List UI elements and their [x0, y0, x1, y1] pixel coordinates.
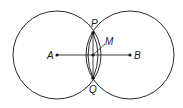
point-q: [91, 76, 95, 80]
label-p: P: [91, 18, 98, 29]
label-q: Q: [89, 84, 97, 95]
label-a: A: [46, 50, 54, 61]
bisector-diagram: A B P Q M: [0, 0, 183, 108]
point-a: [55, 53, 58, 56]
point-m: [91, 53, 94, 56]
point-b: [128, 53, 131, 56]
label-m: M: [105, 36, 114, 47]
point-p: [91, 31, 95, 35]
label-b: B: [134, 50, 141, 61]
